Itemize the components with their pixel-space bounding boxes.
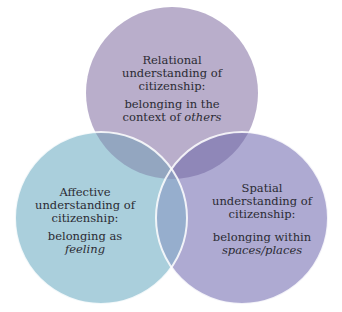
affective-title-line: citizenship:: [52, 211, 119, 225]
spatial-sub-italic: spaces/places: [222, 243, 302, 257]
relational-sub-line: context of: [123, 110, 185, 124]
spatial-label: Spatial understanding of citizenship: be…: [202, 182, 322, 257]
venn-diagram: [0, 0, 342, 312]
relational-label: Relational understanding of citizenship:…: [112, 54, 232, 124]
spatial-title: Spatial understanding of citizenship:: [202, 182, 322, 221]
affective-title-line: understanding of: [35, 198, 135, 212]
affective-label: Affective understanding of citizenship: …: [30, 186, 140, 256]
relational-sub-italic: others: [184, 110, 221, 124]
affective-title: Affective understanding of citizenship:: [30, 186, 140, 225]
relational-title: Relational understanding of citizenship:: [112, 54, 232, 93]
relational-title-line: understanding of: [122, 66, 222, 80]
affective-subtitle: belonging as feeling: [30, 230, 140, 256]
affective-title-line: Affective: [59, 185, 110, 199]
spatial-title-line: understanding of: [212, 194, 312, 208]
affective-sub-line: belonging as: [48, 229, 122, 243]
spatial-title-line: citizenship:: [229, 207, 296, 221]
spatial-sub-line: belonging within: [213, 230, 311, 244]
relational-title-line: Relational: [142, 53, 201, 67]
spatial-subtitle: belonging within spaces/places: [202, 231, 322, 257]
relational-title-line: citizenship:: [139, 79, 206, 93]
relational-subtitle: belonging in the context of others: [112, 98, 232, 124]
spatial-title-line: Spatial: [242, 181, 283, 195]
relational-sub-line: belonging in the: [124, 97, 219, 111]
affective-sub-italic: feeling: [65, 242, 105, 256]
